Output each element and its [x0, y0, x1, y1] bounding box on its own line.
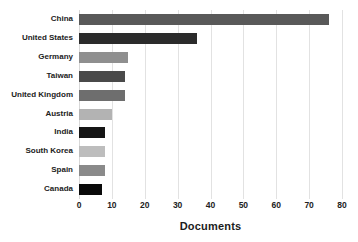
bar-canada	[79, 184, 102, 195]
tick-label-30: 30	[173, 200, 182, 210]
bar-spain	[79, 165, 105, 176]
tick-label-0: 0	[77, 200, 82, 210]
bar-row	[79, 10, 342, 29]
bar-united-kingdom	[79, 90, 125, 101]
bar-united-states	[79, 33, 197, 44]
bars	[79, 10, 342, 199]
category-label-china: China	[51, 10, 73, 29]
bar-row	[79, 29, 342, 48]
bar-row	[79, 161, 342, 180]
bar-china	[79, 14, 329, 25]
bar-chart: ChinaUnited StatesGermanyTaiwanUnited Ki…	[0, 0, 358, 242]
plot-area	[79, 10, 342, 199]
value-axis-tick-labels: 01020304050607080	[79, 200, 342, 214]
tick-label-50: 50	[239, 200, 248, 210]
bar-south-korea	[79, 146, 105, 157]
bar-row	[79, 105, 342, 124]
bar-row	[79, 67, 342, 86]
category-label-united-states: United States	[22, 29, 73, 48]
bar-germany	[79, 52, 128, 63]
tick-label-80: 80	[337, 200, 346, 210]
gridline-80	[342, 10, 343, 199]
category-label-austria: Austria	[45, 105, 73, 124]
tick-label-10: 10	[107, 200, 116, 210]
category-label-spain: Spain	[51, 161, 73, 180]
bar-india	[79, 127, 105, 138]
category-label-germany: Germany	[38, 48, 73, 67]
category-axis-labels: ChinaUnited StatesGermanyTaiwanUnited Ki…	[0, 10, 76, 199]
category-label-canada: Canada	[44, 180, 73, 199]
x-axis-title: Documents	[79, 220, 342, 232]
tick-label-40: 40	[206, 200, 215, 210]
category-label-south-korea: South Korea	[25, 142, 73, 161]
tick-label-70: 70	[304, 200, 313, 210]
bar-row	[79, 180, 342, 199]
tick-label-60: 60	[272, 200, 281, 210]
bar-taiwan	[79, 71, 125, 82]
bar-row	[79, 48, 342, 67]
tick-label-20: 20	[140, 200, 149, 210]
bar-row	[79, 123, 342, 142]
bar-row	[79, 142, 342, 161]
category-label-taiwan: Taiwan	[46, 67, 73, 86]
bar-austria	[79, 109, 112, 120]
bar-row	[79, 86, 342, 105]
category-label-united-kingdom: United Kingdom	[11, 86, 73, 105]
category-label-india: India	[54, 123, 73, 142]
